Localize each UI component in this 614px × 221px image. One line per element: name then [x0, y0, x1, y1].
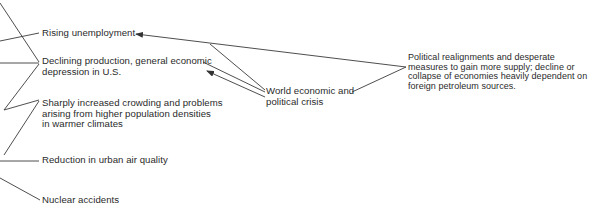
line-in-2	[0, 33, 39, 41]
node-text: Declining production, general economic	[42, 56, 212, 67]
node-world-crisis: World economic and political crisis	[266, 86, 354, 107]
node-text: Rising unemployment	[42, 28, 135, 39]
line-in-1	[0, 3, 39, 62]
line-crisis-to-unemployment	[210, 44, 265, 90]
line-in-8	[0, 178, 40, 200]
arrow-crisis-to-production	[207, 71, 265, 97]
node-text: political crisis	[266, 97, 354, 108]
node-text: in warmer climates	[42, 119, 223, 130]
line-crisis-to-production	[203, 62, 265, 92]
node-text: World economic and	[266, 86, 354, 97]
node-text: Reduction in urban air quality	[42, 155, 168, 166]
node-urban-air-quality: Reduction in urban air quality	[42, 155, 168, 166]
node-increased-crowding: Sharply increased crowding and problems …	[42, 98, 223, 130]
node-text: Nuclear accidents	[42, 195, 119, 206]
node-declining-production: Declining production, general economic d…	[42, 56, 212, 77]
line-in-6	[4, 101, 39, 155]
node-nuclear-accidents: Nuclear accidents	[42, 195, 119, 206]
node-text: foreign petroleum sources.	[408, 82, 587, 92]
line-in-4	[4, 64, 39, 110]
node-political-realignments: Political realignments and desperate mea…	[408, 53, 587, 91]
node-text: depression in U.S.	[42, 67, 212, 78]
node-text: Sharply increased crowding and problems	[42, 98, 223, 109]
node-rising-unemployment: Rising unemployment	[42, 28, 135, 39]
line-right-to-crisis	[352, 67, 406, 92]
